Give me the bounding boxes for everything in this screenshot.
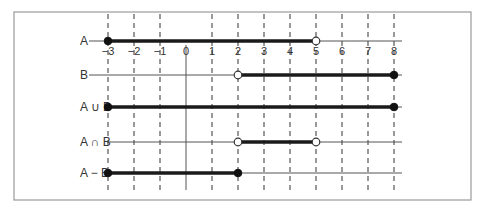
row-5: A − B bbox=[80, 166, 402, 180]
closed-endpoint-end-icon bbox=[234, 169, 242, 177]
closed-endpoint-start-icon bbox=[104, 169, 112, 177]
row-3: A ∪ B bbox=[80, 100, 402, 114]
tick-label: −2 bbox=[128, 45, 141, 57]
open-endpoint-start-icon bbox=[234, 71, 242, 79]
closed-endpoint-end-icon bbox=[390, 103, 398, 111]
closed-endpoint-end-icon bbox=[390, 71, 398, 79]
tick-label: 7 bbox=[365, 45, 371, 57]
tick-label: 8 bbox=[391, 45, 397, 57]
row-label: A ∩ B bbox=[80, 135, 111, 149]
open-endpoint-end-icon bbox=[312, 37, 320, 45]
interval-rows: A−3−2−1012345678BA ∪ BA ∩ BA − B bbox=[80, 34, 402, 180]
open-endpoint-end-icon bbox=[312, 138, 320, 146]
tick-label: 3 bbox=[261, 45, 267, 57]
tick-label: 2 bbox=[235, 45, 241, 57]
row-label: B bbox=[80, 68, 88, 82]
tick-label: 4 bbox=[287, 45, 293, 57]
row-4: A ∩ B bbox=[80, 135, 402, 149]
tick-label: 6 bbox=[339, 45, 345, 57]
tick-label: −3 bbox=[102, 45, 115, 57]
tick-label: 5 bbox=[313, 45, 319, 57]
tick-label: −1 bbox=[154, 45, 167, 57]
number-line-diagram: A−3−2−1012345678BA ∪ BA ∩ BA − B bbox=[0, 0, 483, 213]
tick-label: 1 bbox=[209, 45, 215, 57]
tick-label: 0 bbox=[183, 45, 189, 57]
closed-endpoint-start-icon bbox=[104, 37, 112, 45]
open-endpoint-start-icon bbox=[234, 138, 242, 146]
row-1: A−3−2−1012345678 bbox=[80, 34, 402, 57]
row-2: B bbox=[80, 68, 402, 82]
closed-endpoint-start-icon bbox=[104, 103, 112, 111]
row-label: A bbox=[80, 34, 88, 48]
